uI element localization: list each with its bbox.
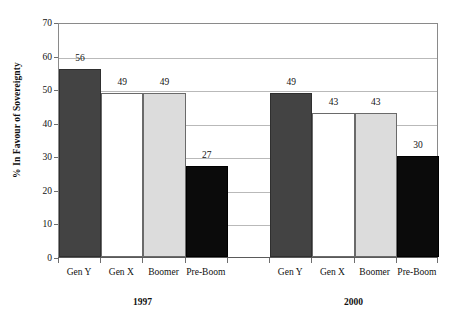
- bar-2000-gen-x: [312, 113, 354, 257]
- x-axis-category-labels: Gen YGen XBoomerPre-BoomGen YGen XBoomer…: [58, 266, 438, 280]
- bar-value-label: 49: [143, 77, 185, 87]
- bar-1997-gen-x: [101, 93, 143, 258]
- x-axis-category-label: Pre-Boom: [392, 266, 442, 278]
- x-axis-tick-mark: [142, 258, 143, 263]
- y-axis-tick-label: 30: [30, 152, 52, 162]
- y-axis-title: % In Favour of Sovereignty: [12, 0, 26, 240]
- bar-value-label: 49: [270, 77, 312, 87]
- y-axis-tick-labels: 706050403020100: [30, 0, 52, 326]
- y-axis-tick-label: 40: [30, 119, 52, 129]
- bar-2000-gen-y: [270, 93, 312, 258]
- bar-value-label: 43: [312, 97, 354, 107]
- x-axis-group-label-2000: 2000: [269, 296, 438, 308]
- gridline: [59, 58, 437, 59]
- bar-2000-pre-boom: [397, 156, 439, 257]
- x-axis-tick-mark: [396, 258, 397, 263]
- bar-1997-pre-boom: [186, 166, 228, 257]
- x-axis-tick-mark: [227, 258, 228, 263]
- x-axis-tick-marks: [58, 258, 438, 264]
- bar-1997-boomer: [143, 93, 185, 258]
- x-axis-category-label: Pre-Boom: [181, 266, 231, 278]
- x-axis-group-label-1997: 1997: [58, 296, 227, 308]
- bar-1997-gen-y: [59, 69, 101, 257]
- y-axis-tick-label: 10: [30, 219, 52, 229]
- bar-value-label: 27: [186, 150, 228, 160]
- bar-value-label: 49: [101, 77, 143, 87]
- x-axis-tick-mark: [437, 258, 438, 263]
- x-axis-tick-mark: [269, 258, 270, 263]
- bar-value-label: 56: [59, 53, 101, 63]
- x-axis-tick-mark: [311, 258, 312, 263]
- x-axis-tick-mark: [58, 258, 59, 263]
- y-axis-tick-label: 60: [30, 52, 52, 62]
- bar-2000-boomer: [355, 113, 397, 257]
- bar-value-label: 43: [355, 97, 397, 107]
- y-axis-tick-label: 50: [30, 85, 52, 95]
- x-axis-tick-mark: [100, 258, 101, 263]
- y-axis-tick-label: 70: [30, 18, 52, 28]
- plot-area: 5649492749434330: [58, 23, 438, 258]
- x-axis-tick-mark: [354, 258, 355, 263]
- y-axis-tick-label: 0: [30, 253, 52, 263]
- bar-chart: % In Favour of Sovereignty 7060504030201…: [0, 0, 457, 326]
- x-axis-tick-mark: [185, 258, 186, 263]
- x-axis-group-labels: 19972000: [58, 296, 438, 310]
- y-axis-tick-label: 20: [30, 186, 52, 196]
- bar-value-label: 30: [397, 140, 439, 150]
